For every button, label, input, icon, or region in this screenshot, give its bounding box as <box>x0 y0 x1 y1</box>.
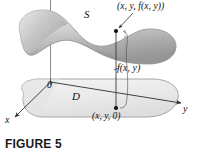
label-point-on-surface: (x, y, f(x, y)) <box>117 2 164 12</box>
label-axis-y: y <box>183 104 187 114</box>
label-surface-s: S <box>84 9 90 20</box>
point-on-domain-dot <box>114 106 118 110</box>
point-on-surface-dot <box>114 29 118 33</box>
surface-over-domain-diagram <box>0 0 197 159</box>
figure-caption: FIGURE 5 <box>5 137 62 151</box>
label-function-height: f(x, y) <box>117 63 140 73</box>
label-origin: 0 <box>47 80 52 90</box>
label-point-on-domain: (x, y, 0) <box>92 112 121 122</box>
label-axis-x: x <box>5 115 9 125</box>
label-domain-d: D <box>72 91 80 102</box>
figure-5-container: (x, y, f(x, y)) f(x, y) (x, y, 0) S D 0 … <box>0 0 197 159</box>
point-top-leader-arrow <box>119 13 133 28</box>
surface-s-shape <box>19 10 176 64</box>
